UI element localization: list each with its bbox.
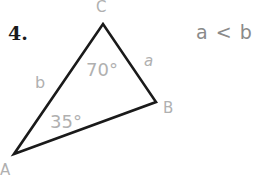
vertex-label-a: A xyxy=(0,161,11,175)
triangle-diagram: C B A a b 70° 35° xyxy=(0,0,261,175)
vertex-label-b: B xyxy=(163,99,173,117)
side-label-b: b xyxy=(35,73,45,92)
angle-label-a: 35° xyxy=(50,111,82,132)
angle-label-c: 70° xyxy=(86,59,118,80)
side-label-a: a xyxy=(144,52,153,70)
vertex-label-c: C xyxy=(96,0,106,16)
